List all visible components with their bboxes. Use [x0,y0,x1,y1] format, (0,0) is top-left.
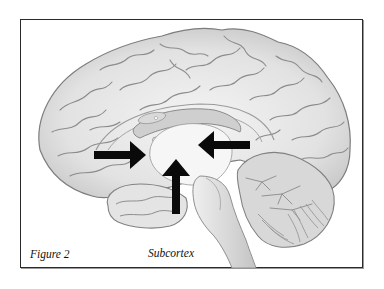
brain-illustration [0,0,384,289]
figure-caption: Subcortex [148,247,194,259]
figure-label: Figure 2 [30,248,70,260]
diencephalon [150,124,232,185]
